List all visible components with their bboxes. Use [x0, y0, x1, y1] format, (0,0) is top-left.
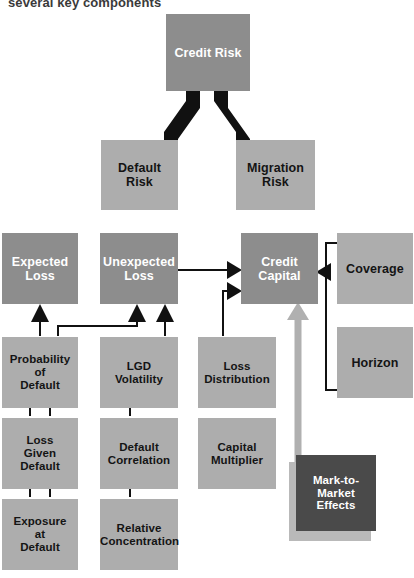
node-migration-risk[interactable]: Migration Risk	[236, 140, 315, 210]
node-capital-multiplier[interactable]: Capital Multiplier	[198, 418, 276, 489]
node-exposure-at-default[interactable]: Exposure at Default	[2, 499, 78, 570]
node-credit-capital-label: Credit Capital	[241, 255, 318, 283]
node-lgd-volatility[interactable]: LGD Volatility	[100, 337, 178, 408]
node-unexpected-loss-label: Unexpected Loss	[100, 255, 178, 283]
node-loss-given-default[interactable]: Loss Given Default	[2, 418, 78, 489]
arrowhead-unexpected-loss-left	[128, 304, 146, 322]
node-lgd-volatility-label: LGD Volatility	[100, 360, 178, 386]
arrowhead-credit-capital-left-lower	[227, 282, 242, 300]
node-horizon[interactable]: Horizon	[337, 327, 413, 398]
node-loss-distribution[interactable]: Loss Distribution	[198, 337, 276, 408]
node-credit-risk-label: Credit Risk	[166, 46, 250, 60]
node-exposure-at-default-label: Exposure at Default	[2, 515, 78, 554]
arrowhead-expected-loss	[31, 304, 49, 322]
line-loss-distribution-to-credit-capital	[223, 291, 229, 336]
node-unexpected-loss[interactable]: Unexpected Loss	[100, 233, 178, 304]
node-default-risk[interactable]: Default Risk	[101, 140, 178, 210]
node-loss-given-default-label: Loss Given Default	[2, 434, 78, 473]
node-expected-loss[interactable]: Expected Loss	[2, 233, 78, 304]
node-loss-distribution-label: Loss Distribution	[198, 360, 276, 386]
node-coverage-label: Coverage	[337, 262, 413, 276]
node-default-correlation[interactable]: Default Correlation	[100, 418, 178, 489]
node-mark-to-market-effects[interactable]: Mark-to- Market Effects	[296, 455, 376, 531]
line-coverage-horizon-bracket	[326, 243, 337, 390]
node-credit-capital[interactable]: Credit Capital	[241, 233, 318, 304]
arrowhead-credit-capital-bottom-gray	[287, 302, 309, 320]
node-migration-risk-label: Migration Risk	[236, 161, 315, 189]
arrowhead-unexpected-loss-right	[156, 304, 174, 322]
node-probability-of-default[interactable]: Probability of Default	[2, 337, 78, 408]
diagram-canvas: several key components	[0, 0, 414, 578]
node-relative-concentration[interactable]: Relative Concentration	[100, 499, 178, 570]
node-probability-of-default-label: Probability of Default	[2, 353, 78, 392]
arrowhead-credit-capital-left-upper	[227, 261, 242, 279]
node-capital-multiplier-label: Capital Multiplier	[198, 441, 276, 467]
node-relative-concentration-label: Relative Concentration	[98, 522, 180, 548]
node-default-correlation-label: Default Correlation	[100, 441, 178, 467]
node-expected-loss-label: Expected Loss	[2, 255, 78, 283]
node-mark-to-market-effects-label: Mark-to- Market Effects	[296, 474, 376, 513]
node-credit-risk[interactable]: Credit Risk	[166, 14, 250, 91]
node-default-risk-label: Default Risk	[101, 161, 178, 189]
node-coverage[interactable]: Coverage	[337, 233, 413, 304]
page-caption: several key components	[8, 0, 308, 10]
node-horizon-label: Horizon	[337, 356, 413, 370]
line-pod-to-unexpected-loss	[58, 320, 137, 336]
arrowhead-credit-capital-right	[316, 263, 331, 281]
